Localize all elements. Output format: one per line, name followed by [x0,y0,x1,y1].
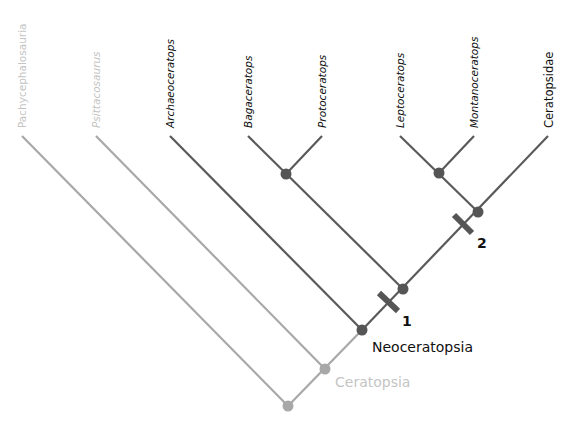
node-bagaceratops-protoceratops [281,169,292,180]
taxon-label: Bagaceratops [242,55,254,128]
node-root [283,401,294,412]
taxon-label: Montanoceratops [468,36,480,128]
clade-label-ceratopsia: Ceratopsia [335,374,410,390]
cladogram: Pachycephalosauria Psittacosaurus Archae… [0,0,567,424]
branch-protoceratops [286,136,322,174]
branch-bagaceratops [248,136,403,289]
taxon-label: Pachycephalosauria [16,24,28,129]
branch-psittacosaurus [96,136,325,369]
dark-branches [170,136,548,330]
node-leptoceratops-montanoceratops [434,168,445,179]
light-branches [22,136,362,406]
taxon-label: Psittacosaurus [90,51,102,128]
node-1 [398,284,409,295]
branch-archaeoceratops [170,136,362,330]
branch-pachycephalosauria [22,136,288,406]
taxon-label: Protoceratops [316,54,328,128]
taxon-label: Leptoceratops [394,52,406,128]
branch-montanoceratops [439,136,474,173]
taxon-label: Ceratopsidae [542,52,556,128]
marker-number-2: 2 [477,235,487,251]
marker-number-1: 1 [402,313,412,329]
node-2 [473,207,484,218]
node-neoceratopsia [357,325,368,336]
taxon-labels: Pachycephalosauria Psittacosaurus Archae… [16,24,556,130]
taxon-label: Archaeoceratops [164,39,176,129]
clade-label-neoceratopsia: Neoceratopsia [372,339,473,355]
node-ceratopsia [320,364,331,375]
